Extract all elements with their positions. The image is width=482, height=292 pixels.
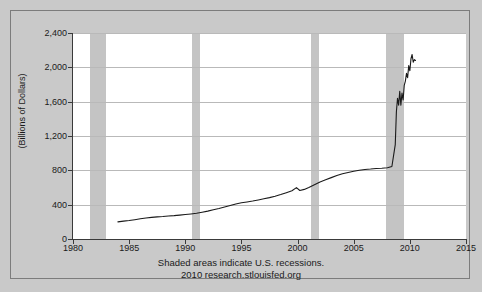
x-tick-mark	[73, 240, 74, 244]
x-tick-label: 2000	[278, 244, 318, 253]
x-axis-line	[72, 239, 467, 240]
x-tick-label: 1980	[53, 244, 93, 253]
y-tick-mark	[68, 205, 72, 206]
y-tick-label: 0	[19, 235, 67, 244]
y-tick-mark	[68, 33, 72, 34]
y-tick-mark	[68, 239, 72, 240]
y-tick-label: 800	[19, 166, 67, 175]
x-tick-mark	[185, 240, 186, 244]
x-tick-mark	[410, 240, 411, 244]
chart-footnote: Shaded areas indicate U.S. recessions. 2…	[11, 257, 471, 281]
y-tick-mark	[68, 102, 72, 103]
x-tick-label: 1985	[109, 244, 149, 253]
x-tick-label: 2005	[334, 244, 374, 253]
y-tick-label: 2,000	[19, 63, 67, 72]
footnote-line-2: 2010 research.stlouisfed.org	[11, 269, 471, 281]
y-axis-line	[72, 33, 73, 240]
series-line	[73, 33, 466, 239]
y-tick-label: 400	[19, 201, 67, 210]
x-tick-label: 1995	[221, 244, 261, 253]
y-tick-label: 2,400	[19, 29, 67, 38]
x-tick-mark	[129, 240, 130, 244]
y-tick-label: 1,200	[19, 132, 67, 141]
y-tick-label: 1,600	[19, 98, 67, 107]
plot-area	[73, 33, 466, 239]
y-axis-title: (Billions of Dollars)	[17, 56, 27, 166]
x-tick-label: 2015	[446, 244, 482, 253]
x-tick-mark	[466, 240, 467, 244]
x-tick-label: 1990	[165, 244, 205, 253]
x-tick-label: 2010	[390, 244, 430, 253]
x-tick-mark	[241, 240, 242, 244]
x-tick-mark	[298, 240, 299, 244]
chart-screenshot: (Billions of Dollars) 04008001,2001,6002…	[0, 0, 482, 292]
footnote-line-1: Shaded areas indicate U.S. recessions.	[11, 257, 471, 269]
y-tick-mark	[68, 67, 72, 68]
y-tick-mark	[68, 136, 72, 137]
y-tick-mark	[68, 170, 72, 171]
x-tick-mark	[354, 240, 355, 244]
chart-frame: (Billions of Dollars) 04008001,2001,6002…	[10, 10, 470, 279]
